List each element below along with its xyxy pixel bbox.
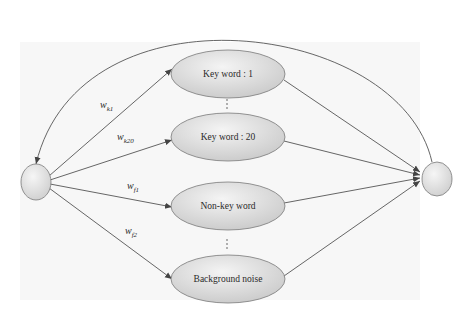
start-node [21,164,51,200]
keyword-spotting-network-diagram: Key word : 1 Key word : 20 Non-key word … [0,0,456,318]
state-kw20: Key word : 20 [171,113,285,161]
state-bg: Background noise [171,255,285,303]
state-label: Non-key word [200,201,255,211]
state-nonkw: Non-key word [171,182,285,230]
state-label: Background noise [194,274,263,284]
state-kw1: Key word : 1 [171,50,285,98]
state-label: Key word : 1 [203,69,253,79]
end-node [422,162,452,196]
state-label: Key word : 20 [201,132,256,142]
